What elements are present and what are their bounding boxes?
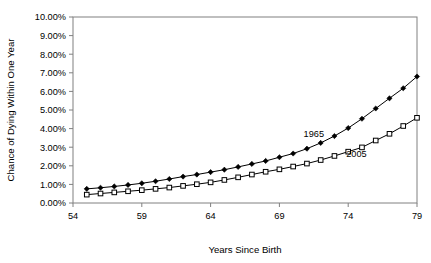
x-axis-title: Years Since Birth (208, 244, 281, 255)
data-point-marker (332, 154, 337, 159)
chart-container: 0.00%1.00%2.00%3.00%4.00%5.00%6.00%7.00%… (0, 0, 431, 263)
y-tick-label: 8.00% (40, 50, 66, 60)
y-axis-ticks: 0.00%1.00%2.00%3.00%4.00%5.00%6.00%7.00%… (35, 12, 73, 208)
data-point-marker (291, 164, 296, 169)
data-point-marker (98, 191, 103, 196)
data-point-marker (126, 189, 131, 194)
y-tick-label: 3.00% (40, 143, 66, 153)
y-tick-label: 6.00% (40, 87, 66, 97)
x-tick-label: 69 (274, 211, 284, 221)
data-point-marker (167, 185, 172, 190)
y-tick-label: 4.00% (40, 124, 66, 134)
plot-area-frame (73, 17, 417, 203)
data-point-marker (250, 172, 255, 177)
x-tick-label: 64 (205, 211, 215, 221)
data-point-marker (387, 132, 392, 137)
series-label-2005: 2005 (346, 149, 366, 159)
x-tick-label: 74 (343, 211, 353, 221)
y-tick-label: 10.00% (35, 12, 66, 22)
data-point-marker (84, 192, 89, 197)
y-axis-title: Chance of Dying Within One Year (5, 38, 16, 182)
y-tick-label: 0.00% (40, 198, 66, 208)
data-point-marker (236, 175, 241, 180)
data-point-marker (140, 188, 145, 193)
y-tick-label: 1.00% (40, 180, 66, 190)
x-tick-label: 79 (412, 211, 422, 221)
series-label-1965: 1965 (304, 129, 324, 139)
data-point-marker (415, 116, 420, 121)
data-point-marker (277, 167, 282, 172)
y-tick-label: 2.00% (40, 161, 66, 171)
mortality-line-chart: 0.00%1.00%2.00%3.00%4.00%5.00%6.00%7.00%… (0, 0, 431, 263)
data-point-marker (373, 138, 378, 143)
x-tick-label: 59 (137, 211, 147, 221)
y-tick-label: 9.00% (40, 31, 66, 41)
data-point-marker (208, 180, 213, 185)
data-point-marker (305, 161, 310, 166)
x-tick-label: 54 (68, 211, 78, 221)
data-point-marker (222, 178, 227, 183)
data-point-marker (401, 124, 406, 129)
data-point-marker (318, 158, 323, 163)
y-tick-label: 5.00% (40, 105, 66, 115)
data-point-marker (195, 182, 200, 187)
data-point-marker (181, 184, 186, 189)
x-axis-ticks: 545964697479 (68, 203, 422, 221)
data-point-marker (263, 169, 268, 174)
data-point-marker (153, 187, 158, 192)
data-point-marker (112, 190, 117, 195)
y-tick-label: 7.00% (40, 68, 66, 78)
